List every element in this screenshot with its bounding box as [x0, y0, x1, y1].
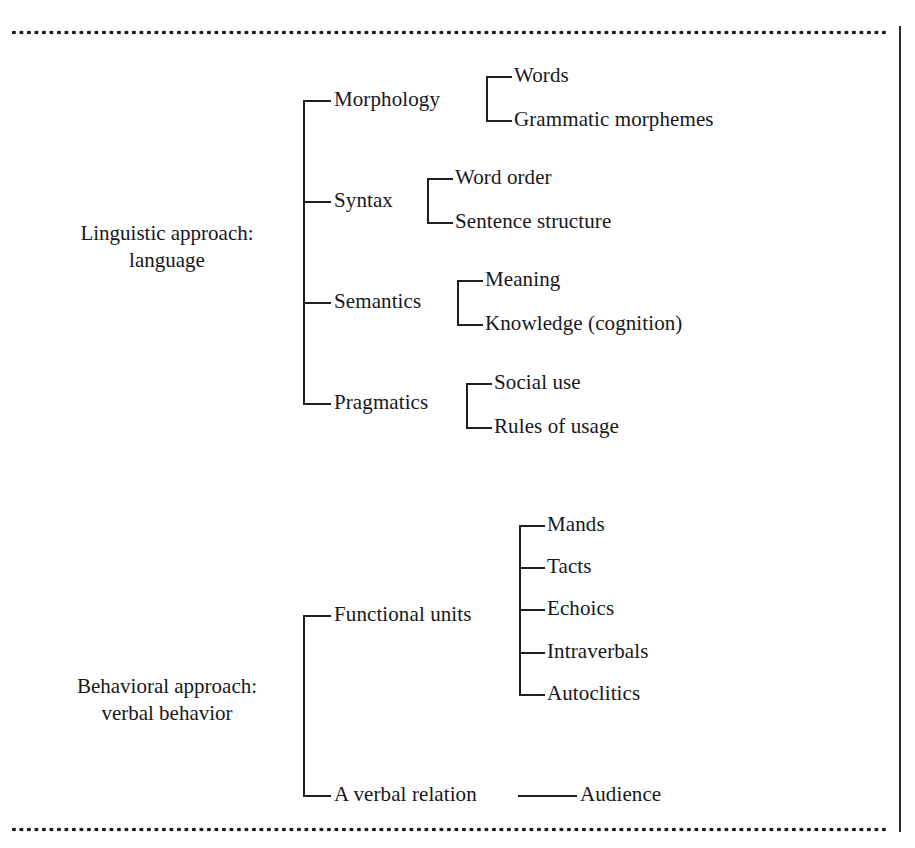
- linguistic-root-line-1: Linguistic approach:: [62, 220, 272, 247]
- top-dotted-rule: [12, 30, 889, 35]
- linguistic-stub-pragmatics: [303, 403, 331, 405]
- morphology-stub-words: [486, 76, 512, 78]
- behavioral-spine: [303, 615, 305, 796]
- leaf-audience: Audience: [580, 784, 661, 805]
- pragmatics-stub-rules-of-usage: [466, 427, 492, 429]
- semantics-stub-meaning: [457, 280, 483, 282]
- linguistic-stub-syntax: [303, 201, 331, 203]
- linguistic-stub-semantics: [303, 302, 331, 304]
- behavioral-root-label: Behavioral approach: verbal behavior: [48, 673, 286, 727]
- leaf-mands: Mands: [547, 514, 605, 535]
- connector-a-verbal-relation-audience: [518, 795, 577, 797]
- syntax-stub-sentence-structure: [427, 222, 453, 224]
- node-functional-units: Functional units: [334, 604, 472, 625]
- functional-units-stub-echoics: [519, 609, 545, 611]
- linguistic-spine: [303, 100, 305, 404]
- leaf-tacts: Tacts: [547, 556, 592, 577]
- pragmatics-stub-social-use: [466, 383, 492, 385]
- leaf-sentence-structure: Sentence structure: [455, 211, 611, 232]
- behavioral-root-line-1: Behavioral approach:: [48, 673, 286, 700]
- node-a-verbal-relation: A verbal relation: [334, 784, 477, 805]
- behavioral-root-line-2: verbal behavior: [48, 700, 286, 727]
- semantics-subspine: [457, 280, 459, 325]
- node-syntax: Syntax: [334, 190, 393, 211]
- semantics-stub-knowledge: [457, 324, 483, 326]
- leaf-word-order: Word order: [455, 167, 552, 188]
- functional-units-stub-autoclitics: [519, 694, 545, 696]
- bottom-dotted-rule: [12, 827, 889, 832]
- leaf-knowledge-cognition: Knowledge (cognition): [485, 313, 682, 334]
- functional-units-stub-tacts: [519, 567, 545, 569]
- leaf-words: Words: [514, 65, 569, 86]
- morphology-subspine: [486, 76, 488, 121]
- behavioral-stub-functional-units: [303, 615, 331, 617]
- leaf-echoics: Echoics: [547, 598, 614, 619]
- leaf-autoclitics: Autoclitics: [547, 683, 640, 704]
- linguistic-root-line-2: language: [62, 247, 272, 274]
- node-pragmatics: Pragmatics: [334, 392, 428, 413]
- linguistic-root-label: Linguistic approach: language: [62, 220, 272, 274]
- syntax-subspine: [427, 178, 429, 223]
- syntax-stub-word-order: [427, 178, 453, 180]
- linguistic-stub-morphology: [303, 100, 331, 102]
- leaf-meaning: Meaning: [485, 269, 560, 290]
- leaf-rules-of-usage: Rules of usage: [494, 416, 619, 437]
- functional-units-stub-mands: [519, 525, 545, 527]
- leaf-grammatic-morphemes: Grammatic morphemes: [514, 109, 714, 130]
- behavioral-stub-a-verbal-relation: [303, 795, 331, 797]
- pragmatics-subspine: [466, 383, 468, 428]
- functional-units-stub-intraverbals: [519, 652, 545, 654]
- node-semantics: Semantics: [334, 291, 421, 312]
- node-morphology: Morphology: [334, 89, 440, 110]
- morphology-stub-grammatic-morphemes: [486, 120, 512, 122]
- figure-canvas: Linguistic approach: language Morphology…: [0, 0, 915, 848]
- right-border-rule: [899, 26, 901, 832]
- leaf-intraverbals: Intraverbals: [547, 641, 648, 662]
- leaf-social-use: Social use: [494, 372, 581, 393]
